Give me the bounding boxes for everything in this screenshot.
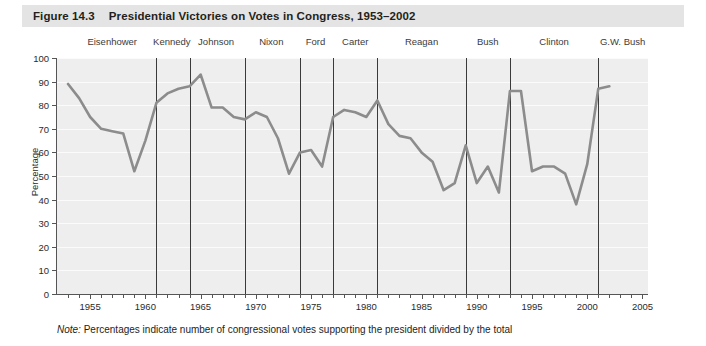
x-axis-tick-minor: [388, 294, 389, 298]
x-axis-tick-minor: [101, 294, 102, 298]
x-axis-tick-minor: [543, 294, 544, 298]
y-axis-tick-label: 30: [38, 218, 49, 229]
x-axis-tick-minor: [410, 294, 411, 298]
president-label-clinton: Clinton: [539, 36, 569, 47]
president-label-g-w-bush: G.W. Bush: [600, 36, 645, 47]
x-axis-tick-label: 1965: [190, 301, 211, 312]
x-axis-tick-label: 1990: [466, 301, 487, 312]
x-axis-tick-minor: [576, 294, 577, 298]
x-axis-tick-major: [90, 294, 91, 299]
x-axis-tick-minor: [212, 294, 213, 298]
x-axis-tick-minor: [322, 294, 323, 298]
y-axis-tick-label: 60: [38, 147, 49, 158]
x-axis-tick-minor: [68, 294, 69, 298]
x-axis-tick-minor: [399, 294, 400, 298]
x-axis-tick-major: [256, 294, 257, 299]
x-axis-tick-major: [201, 294, 202, 299]
y-axis-tick-label: 40: [38, 194, 49, 205]
figure-number: Figure 14.3: [33, 10, 95, 22]
figure-title-bar: Figure 14.3 Presidential Victories on Vo…: [22, 5, 684, 27]
x-axis-tick-minor: [190, 294, 191, 298]
x-axis-tick-minor: [466, 294, 467, 298]
x-axis-tick-minor: [278, 294, 279, 298]
president-label-ford: Ford: [306, 36, 326, 47]
x-axis-tick-label: 2005: [632, 301, 653, 312]
x-axis-tick-minor: [344, 294, 345, 298]
x-axis-tick-minor: [554, 294, 555, 298]
x-axis-tick-label: 1980: [356, 301, 377, 312]
x-axis-tick-minor: [112, 294, 113, 298]
x-axis-tick-major: [422, 294, 423, 299]
president-label-bush: Bush: [477, 36, 499, 47]
note-text: Percentages indicate number of congressi…: [81, 324, 512, 335]
x-axis-tick-major: [145, 294, 146, 299]
x-axis-tick-minor: [234, 294, 235, 298]
x-axis-tick-minor: [134, 294, 135, 298]
y-axis-tick-label: 80: [38, 100, 49, 111]
x-axis-tick-minor: [620, 294, 621, 298]
x-axis-tick-minor: [355, 294, 356, 298]
president-label-carter: Carter: [342, 36, 368, 47]
president-label-eisenhower: Eisenhower: [87, 36, 137, 47]
x-axis-tick-minor: [223, 294, 224, 298]
x-axis-tick-label: 1985: [411, 301, 432, 312]
x-axis-tick-major: [311, 294, 312, 299]
x-axis-tick-minor: [79, 294, 80, 298]
chart-figure: Percentage EisenhowerKennedyJohnsonNixon…: [0, 27, 706, 317]
x-axis-tick-minor: [377, 294, 378, 298]
x-axis-tick-minor: [433, 294, 434, 298]
x-axis-tick-minor: [179, 294, 180, 298]
page-title: Presidential Victories on Votes in Congr…: [109, 10, 416, 22]
president-label-nixon: Nixon: [259, 36, 283, 47]
y-axis-tick-label: 90: [38, 76, 49, 87]
x-axis-tick-minor: [598, 294, 599, 298]
x-axis-tick-minor: [631, 294, 632, 298]
x-axis-tick-minor: [167, 294, 168, 298]
series-line-chart: [57, 58, 648, 294]
x-axis-tick-major: [587, 294, 588, 299]
y-axis-tick: [52, 294, 57, 295]
x-axis-tick-minor: [289, 294, 290, 298]
x-axis-tick-minor: [444, 294, 445, 298]
note-prefix: Note:: [57, 324, 81, 335]
president-label-johnson: Johnson: [198, 36, 234, 47]
y-axis-tick-label: 50: [38, 171, 49, 182]
x-axis-tick-minor: [333, 294, 334, 298]
x-axis-tick-label: 1995: [521, 301, 542, 312]
x-axis-tick-minor: [609, 294, 610, 298]
x-axis-tick-minor: [455, 294, 456, 298]
figure-note: Note: Percentages indicate number of con…: [57, 324, 677, 335]
x-axis-tick-minor: [123, 294, 124, 298]
x-axis-tick-label: 2000: [577, 301, 598, 312]
x-axis-tick-minor: [565, 294, 566, 298]
x-axis-tick-label: 1975: [300, 301, 321, 312]
x-axis-tick-minor: [156, 294, 157, 298]
y-axis-tick-label: 100: [33, 53, 49, 64]
x-axis-tick-minor: [245, 294, 246, 298]
x-axis-tick-minor: [510, 294, 511, 298]
series-polyline: [68, 75, 609, 205]
x-axis-tick-major: [366, 294, 367, 299]
x-axis-tick-label: 1970: [245, 301, 266, 312]
x-axis-tick-minor: [488, 294, 489, 298]
x-axis-tick-minor: [300, 294, 301, 298]
x-axis-tick-major: [532, 294, 533, 299]
y-axis-tick-label: 20: [38, 241, 49, 252]
y-axis-tick-label: 10: [38, 265, 49, 276]
x-axis-tick-minor: [499, 294, 500, 298]
x-axis-tick-label: 1960: [135, 301, 156, 312]
x-axis-tick-label: 1955: [80, 301, 101, 312]
president-label-reagan: Reagan: [405, 36, 438, 47]
x-axis-tick-major: [477, 294, 478, 299]
x-axis-tick-minor: [267, 294, 268, 298]
president-label-kennedy: Kennedy: [153, 36, 191, 47]
plot-area: 0102030405060708090100 19551960196519701…: [57, 58, 648, 294]
y-axis-tick-label: 70: [38, 123, 49, 134]
x-axis-tick-major: [642, 294, 643, 299]
president-label-band: EisenhowerKennedyJohnsonNixonFordCarterR…: [0, 36, 706, 52]
y-axis-tick-label: 0: [44, 289, 49, 300]
x-axis-tick-minor: [521, 294, 522, 298]
